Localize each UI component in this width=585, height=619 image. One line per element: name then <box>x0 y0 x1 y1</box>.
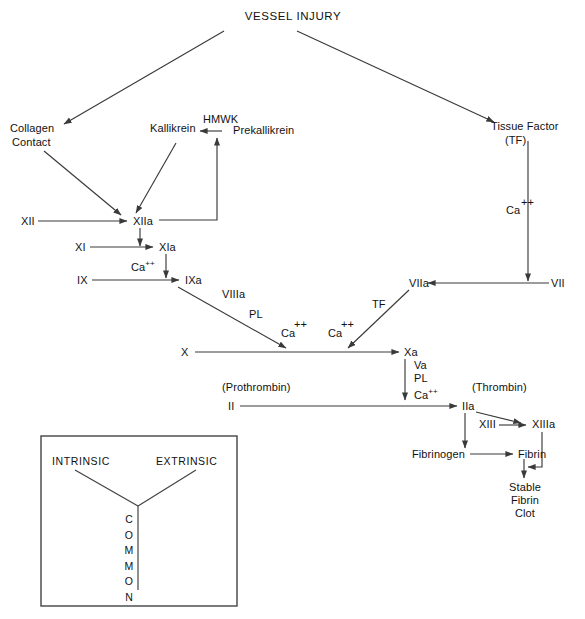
legend-label-extrinsic: EXTRINSIC <box>156 455 217 468</box>
cofactor-ca-xia-charge: ++ <box>145 259 154 268</box>
node-tissue-factor: Tissue Factor <box>491 120 559 133</box>
node-ii: II <box>228 400 234 413</box>
cofactor-ca-extrinsic: Ca <box>328 327 342 340</box>
node-xi: XI <box>75 241 86 254</box>
cofactor-va: Va <box>414 359 427 372</box>
legend-intrinsic-branch <box>75 470 138 506</box>
node-x: X <box>181 346 188 359</box>
node-stable-fibrin: Fibrin <box>511 494 539 507</box>
cofactor-ca-extrinsic-charge: ++ <box>341 318 354 331</box>
cofactor-viiia: VIIIa <box>222 288 245 301</box>
node-ixa: IXa <box>185 274 202 287</box>
node-xiia: XIIa <box>133 215 153 228</box>
node-xiiia: XIIIa <box>532 418 555 431</box>
node-viia: VIIa <box>409 277 429 290</box>
node-tissue-factor-abbr: (TF) <box>505 134 526 147</box>
page-title: VESSEL INJURY <box>245 10 342 23</box>
node-collagen: Collagen <box>10 122 54 135</box>
node-xia: XIa <box>159 241 176 254</box>
arrow-injury-to-tissue-factor <box>297 31 494 122</box>
arrow-kallikrein-to-xiia <box>136 143 176 213</box>
cofactor-ca-common: Ca++ <box>414 385 438 402</box>
arrow-xiia-feedback-to-prekallikrein <box>159 138 217 220</box>
legend-common-letter: M <box>122 559 136 575</box>
node-ix: IX <box>77 274 88 287</box>
cofactor-ca-intrinsic: Ca <box>281 327 295 340</box>
cofactor-ca-charge-tf: ++ <box>521 196 534 209</box>
legend-common-letter: N <box>122 590 136 606</box>
legend-common-letter: O <box>122 528 136 544</box>
node-xii: XII <box>21 215 35 228</box>
legend-label-intrinsic: INTRINSIC <box>52 455 110 468</box>
legend-extrinsic-branch <box>138 470 196 506</box>
node-xiii: XIII <box>479 418 496 431</box>
node-xa: Xa <box>404 346 418 359</box>
node-prekallikrein: Prekallikrein <box>233 124 294 137</box>
cofactor-pl-intrinsic: PL <box>249 308 263 321</box>
node-kallikrein: Kallikrein <box>150 122 196 135</box>
legend-common-letters: C O M M O N <box>122 512 136 605</box>
cofactor-ca-tf: Ca <box>506 204 520 217</box>
node-stable: Stable <box>509 481 541 494</box>
annotation-prothrombin: (Prothrombin) <box>222 381 291 394</box>
legend-common-letter: M <box>122 543 136 559</box>
cofactor-tf-extrinsic: TF <box>372 298 386 311</box>
coagulation-cascade-canvas <box>0 0 585 619</box>
node-iia: IIa <box>462 400 475 413</box>
node-vii: VII <box>551 277 565 290</box>
arrow-collagen-to-xiia <box>44 151 121 215</box>
node-contact: Contact <box>12 136 51 149</box>
node-stable-clot: Clot <box>515 507 535 520</box>
cofactor-ca-common-charge: ++ <box>428 387 437 396</box>
cofactor-pl-common: PL <box>414 372 428 385</box>
arrow-injury-to-collagen <box>64 31 224 124</box>
annotation-thrombin: (Thrombin) <box>472 381 527 394</box>
node-fibrin: Fibrin <box>518 448 546 461</box>
legend-common-letter: C <box>122 512 136 528</box>
node-fibrinogen: Fibrinogen <box>412 448 465 461</box>
legend-common-letter: O <box>122 574 136 590</box>
cofactor-ca-xia: Ca++ <box>131 257 155 274</box>
cofactor-ca-intrinsic-charge: ++ <box>294 318 307 331</box>
